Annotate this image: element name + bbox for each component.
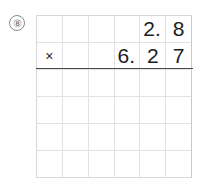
problem-number-badge: ⑧ <box>9 15 25 31</box>
grid-cell-r2c4[interactable]: 6. <box>115 43 141 70</box>
grid-cell-r6c1[interactable] <box>37 151 63 178</box>
grid-cell-r6c2[interactable] <box>63 151 89 178</box>
grid-cell-r3c5[interactable] <box>140 70 166 97</box>
grid-cell-r1c1[interactable] <box>37 16 63 43</box>
grid-cell-r6c4[interactable] <box>115 151 141 178</box>
grid-cell-r5c4[interactable] <box>115 124 141 151</box>
grid-cell-r4c1[interactable] <box>37 97 63 124</box>
grid-cell-r3c4[interactable] <box>115 70 141 97</box>
grid-cell-r2c1-operator[interactable]: × <box>37 43 63 70</box>
worksheet-problem: ⑧ 2. 8 × 6. 2 7 <box>0 0 203 185</box>
grid-cell-r1c4[interactable] <box>115 16 141 43</box>
answer-rule-line <box>36 68 193 69</box>
grid-cell-r4c3[interactable] <box>89 97 115 124</box>
grid-cell-r5c2[interactable] <box>63 124 89 151</box>
grid-cell-r5c5[interactable] <box>140 124 166 151</box>
grid-cell-r1c5[interactable]: 2. <box>140 16 166 43</box>
grid-cell-r6c5[interactable] <box>140 151 166 178</box>
grid-cell-r4c5[interactable] <box>140 97 166 124</box>
grid-cell-r2c6[interactable]: 7 <box>166 43 192 70</box>
grid-cell-r3c2[interactable] <box>63 70 89 97</box>
grid-cell-r2c5[interactable]: 2 <box>140 43 166 70</box>
grid-cell-r4c6[interactable] <box>166 97 192 124</box>
grid-cell-r1c3[interactable] <box>89 16 115 43</box>
grid-cell-r3c1[interactable] <box>37 70 63 97</box>
grid-cell-r1c6[interactable]: 8 <box>166 16 192 43</box>
grid-cell-r5c3[interactable] <box>89 124 115 151</box>
grid-cell-r6c3[interactable] <box>89 151 115 178</box>
calculation-grid: 2. 8 × 6. 2 7 <box>36 15 192 178</box>
grid-cell-r4c2[interactable] <box>63 97 89 124</box>
grid-cell-r1c2[interactable] <box>63 16 89 43</box>
grid-cell-r5c6[interactable] <box>166 124 192 151</box>
grid-cell-r2c2[interactable] <box>63 43 89 70</box>
grid-cell-r4c4[interactable] <box>115 97 141 124</box>
grid-cell-r3c6[interactable] <box>166 70 192 97</box>
grid-cell-r2c3[interactable] <box>89 43 115 70</box>
grid-cell-r5c1[interactable] <box>37 124 63 151</box>
grid-cell-r6c6[interactable] <box>166 151 192 178</box>
grid-cell-r3c3[interactable] <box>89 70 115 97</box>
